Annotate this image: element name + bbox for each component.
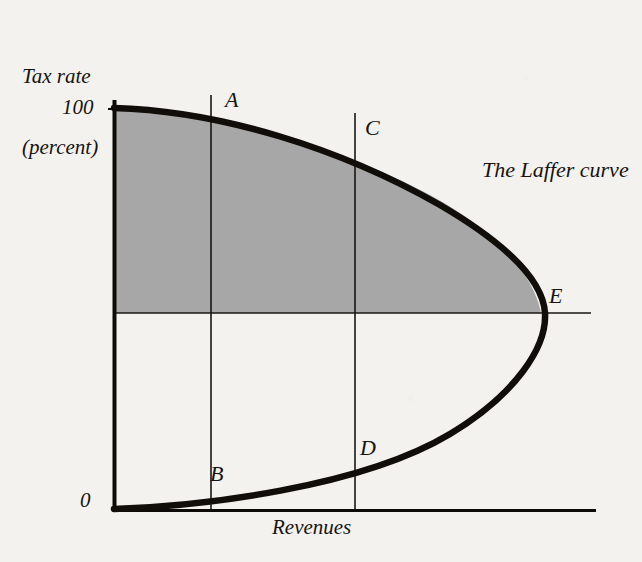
shaded-region — [115, 110, 541, 313]
y-tick-label-0: 0 — [80, 489, 91, 513]
y-axis-label-line2: (percent) — [22, 136, 98, 160]
point-label-d: D — [360, 436, 376, 461]
point-label-c: C — [365, 116, 380, 141]
point-label-e: E — [549, 284, 562, 309]
figure-title: The Laffer curve — [482, 158, 629, 183]
point-label-a: A — [225, 88, 238, 113]
laffer-curve-figure: Tax rate (percent) 100 0 A B C D E Reven… — [0, 0, 642, 562]
point-label-b: B — [210, 462, 223, 487]
y-axis-label-line1: Tax rate — [22, 65, 98, 89]
y-tick-label-100: 100 — [62, 96, 94, 120]
x-axis-label: Revenues — [272, 516, 351, 540]
